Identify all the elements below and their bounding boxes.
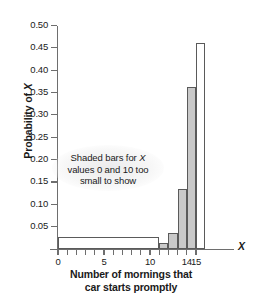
x-tick-label: 0 [46, 256, 70, 267]
bar-group-too-small [58, 237, 159, 249]
bar-x-12 [168, 233, 177, 249]
bar-x-14 [187, 87, 196, 249]
x-tick-label: 5 [92, 256, 116, 267]
annotation-line3: small to show [80, 175, 136, 186]
x-tick-mark [131, 250, 132, 255]
x-axis-title-line1: Number of mornings that [70, 268, 192, 280]
x-tick-mark [149, 250, 150, 255]
x-axis-variable-symbol: X [238, 240, 245, 252]
x-tick-mark [168, 250, 169, 255]
annotation-line2: values 0 and 10 too [67, 164, 148, 175]
annotation-line1-variable: X [139, 152, 145, 163]
x-tick-mark [195, 250, 196, 255]
x-axis-title: Number of mornings that car starts promp… [0, 268, 262, 293]
x-tick-mark [177, 250, 178, 255]
probability-distribution-chart: Probability of X 0.500.450.400.350.300.2… [0, 0, 262, 299]
x-tick-mark [85, 250, 86, 255]
bar-x-15 [196, 43, 205, 249]
x-tick-mark [67, 250, 68, 255]
x-axis-line [50, 249, 234, 250]
bar-series [0, 0, 262, 249]
x-tick-label: 10 [138, 256, 162, 267]
chart-annotation: Shaded bars for X values 0 and 10 too sm… [52, 152, 164, 187]
x-tick-mark [113, 250, 114, 255]
x-tick-label: 15 [184, 256, 208, 267]
x-tick-mark [76, 250, 77, 255]
x-tick-mark [159, 250, 160, 255]
bar-x-13 [178, 189, 187, 249]
x-axis-title-line2: car starts promptly [85, 281, 177, 293]
annotation-line1-prefix: Shaded bars for [71, 152, 140, 163]
x-tick-mark [94, 250, 95, 255]
x-tick-mark [57, 250, 58, 255]
x-tick-mark [103, 250, 104, 255]
x-tick-mark [140, 250, 141, 255]
x-tick-mark [122, 250, 123, 255]
x-tick-mark [186, 250, 187, 255]
